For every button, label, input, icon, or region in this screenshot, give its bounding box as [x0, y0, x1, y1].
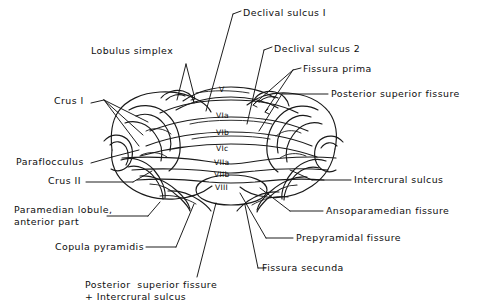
lobule-label-viii: VIII	[215, 183, 228, 192]
label-declival-sulcus-2: Declival sulcus 2	[274, 43, 360, 55]
leader-crus-i-dash	[91, 100, 104, 103]
label-paramedian-lobule: Paramedian lobule, anterior part	[14, 204, 112, 227]
label-prepyramidal-fissure: Prepyramidal fissure	[296, 232, 401, 244]
leader-paraflocculus-b	[112, 150, 139, 157]
leader-lobulus-simplex-stem	[186, 64, 195, 99]
right-hemisphere-lower-outline	[240, 149, 335, 198]
crus-ii-left-inner	[128, 166, 163, 199]
label-copula-pyramidis: Copula pyramidis	[55, 241, 144, 253]
leader-fissura-secunda	[245, 205, 258, 268]
crus-ii-left	[121, 158, 165, 198]
leader-copula-pyramidis-b	[176, 204, 194, 247]
crus-ii-right-inner	[284, 167, 319, 200]
label-posterior-superior-fissure-intercrural-sulcus: Posterior superior fissure + Intercrural…	[85, 279, 217, 302]
label-intercrural-sulcus: Intercrural sulcus	[354, 174, 443, 186]
label-posterior-superior-fissure: Posterior superior fissure	[331, 88, 460, 100]
paraflocculus-right-inner	[321, 143, 337, 148]
cerebellum-diagram-figure: V VIa VIb VIc VIIa VIIb VIII Lobulus sim…	[0, 0, 479, 304]
lobule-label-viib: VIIb	[214, 170, 230, 179]
right-folium-detail-a	[276, 131, 301, 136]
crus-i-right-fold	[286, 123, 322, 162]
leader-declival-1-dash	[233, 11, 241, 14]
paraflocculus-right	[315, 136, 343, 172]
lobule-label-vic: VIc	[216, 144, 228, 153]
label-ansoparamedian-fissure: Ansoparamedian fissure	[326, 205, 449, 217]
diagram-canvas	[0, 0, 479, 304]
leader-paraflocculus	[91, 157, 112, 163]
leader-fissura-prima-dash	[293, 68, 301, 70]
label-crus-i: Crus I	[54, 95, 84, 107]
lobule-label-via: VIa	[216, 111, 229, 120]
vic-lower-boundary	[140, 144, 317, 157]
lobule-label-v: V	[219, 85, 224, 94]
vermis-folium-3	[192, 136, 270, 139]
arrowhead-fissura-prima-b	[265, 109, 269, 114]
leader-declival-2-dash	[264, 47, 272, 50]
leader-paramedian-lobule-b	[148, 202, 160, 216]
lobule-label-viia: VIIa	[214, 158, 229, 167]
label-fissura-prima: Fissura prima	[303, 63, 372, 75]
label-declival-sulcus-1: Declival sulcus I	[243, 7, 326, 19]
label-crus-ii: Crus II	[48, 175, 81, 187]
vermis-folium-2	[190, 120, 272, 124]
leader-declival-2	[247, 50, 264, 124]
leader-post-sup-intercrural	[197, 203, 216, 277]
label-paraflocculus: Paraflocculus	[16, 156, 84, 168]
label-fissura-secunda: Fissura secunda	[262, 262, 344, 274]
label-lobulus-simplex: Lobulus simplex	[91, 45, 173, 57]
arrowhead-fissura-prima-a	[253, 102, 257, 107]
lobule-label-vib: VIb	[216, 128, 229, 137]
lobulus-simplex-left-inner	[166, 95, 185, 100]
